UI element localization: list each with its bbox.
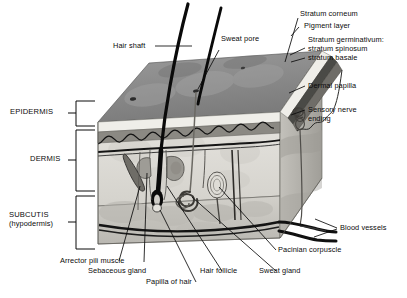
label-sweat-pore: Sweat pore bbox=[221, 35, 259, 44]
hair-follicle-canal bbox=[158, 150, 161, 192]
bracket-label-dermis: DERMIS bbox=[30, 155, 60, 164]
label-pacinian-corpuscle: Pacinian corpuscle bbox=[278, 246, 341, 255]
bracket-label-subcutis-alt: (hypodermis) bbox=[9, 220, 53, 229]
skin-block bbox=[98, 4, 342, 244]
bracket-label-epidermis: EPIDERMIS bbox=[10, 108, 53, 117]
label-blood-vessels: Blood vessels bbox=[340, 224, 387, 233]
leader-blood-vessels-1 bbox=[315, 219, 337, 228]
label-hair-shaft: Hair shaft bbox=[113, 42, 145, 51]
label-hair-follicle: Hair follicle bbox=[200, 267, 237, 276]
label-stratum-corneum: Stratum corneum bbox=[300, 10, 358, 19]
label-papilla-of-hair: Papilla of hair bbox=[146, 278, 192, 287]
label-arrector-pili-muscle: Arrector pili muscle bbox=[60, 257, 124, 266]
label-sebaceous-gland: Sebaceous gland bbox=[88, 267, 146, 276]
label-pigment-layer: Pigment layer bbox=[304, 22, 350, 31]
bracket-dermis bbox=[76, 130, 95, 191]
label-dermal-papilla: Dermal papilla bbox=[308, 82, 356, 91]
label-sensory-nerve-ending-line2: ending bbox=[308, 115, 331, 124]
label-stratum-basale: stratum basale bbox=[308, 54, 358, 63]
layer-brackets bbox=[68, 101, 95, 249]
label-sweat-gland: Sweat gland bbox=[259, 267, 301, 276]
skin-anatomy-figure: EPIDERMIS DERMIS SUBCUTIS (hypodermis) H… bbox=[0, 0, 407, 298]
bracket-epidermis bbox=[76, 101, 95, 126]
bracket-subcutis bbox=[76, 196, 95, 249]
